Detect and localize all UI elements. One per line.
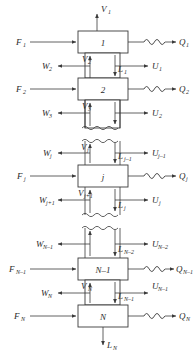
heat-exchanger-coil-n bbox=[144, 314, 165, 319]
label-L1-base: L bbox=[117, 64, 123, 74]
label-U2-sub: 2 bbox=[159, 113, 162, 119]
label-Wjp1-sub: j+1 bbox=[45, 200, 55, 206]
heat-exchanger-coil-1 bbox=[144, 40, 165, 45]
cascade-diagram: V 1 1 F 1 Q 1 V 2 L 1 W 2 U 1 2 F 2 bbox=[0, 0, 196, 359]
cascade-svg: V 1 1 F 1 Q 1 V 2 L 1 W 2 U 1 2 F 2 bbox=[0, 0, 196, 359]
label-Fnm1-base: F bbox=[8, 264, 15, 274]
stage-label-2: 2 bbox=[101, 85, 106, 95]
heat-exchanger-coil-n-minus-1 bbox=[144, 267, 165, 272]
label-Lnm2-sub: N–2 bbox=[123, 249, 134, 255]
label-Q1-sub: 1 bbox=[186, 42, 189, 48]
label-Lnm2-base: L bbox=[117, 244, 123, 254]
label-F2-sub: 2 bbox=[23, 89, 26, 95]
label-Qj-base: Q bbox=[179, 171, 186, 181]
label-F1-sub: 1 bbox=[23, 42, 26, 48]
label-LN-sub: N bbox=[112, 345, 118, 351]
stage-label-n: N bbox=[99, 312, 107, 322]
label-L1-sub: 1 bbox=[124, 69, 127, 75]
label-Ujm1-sub: j–1 bbox=[157, 153, 166, 159]
heat-exchanger-coil-2 bbox=[144, 87, 165, 92]
label-U2-base: U bbox=[152, 108, 159, 118]
break-wave-2 bbox=[82, 139, 118, 142]
label-Ljm1-base: L bbox=[117, 151, 123, 161]
label-WN-sub: N bbox=[47, 293, 53, 299]
label-FN-sub: N bbox=[20, 316, 26, 322]
break-wave-4 bbox=[82, 226, 118, 229]
label-V1-base: V bbox=[101, 4, 108, 14]
label-Fj-base: F bbox=[16, 171, 23, 181]
label-Vj-sub: j bbox=[86, 147, 89, 153]
label-Unm2-sub: N–2 bbox=[157, 244, 168, 250]
label-Ljm1-sub: j–1 bbox=[123, 156, 132, 162]
label-Unm1-sub: N–1 bbox=[157, 286, 168, 292]
label-V1-sub: 1 bbox=[108, 9, 111, 15]
label-F2-base: F bbox=[15, 84, 22, 94]
label-LN-base: L bbox=[106, 340, 112, 350]
break-wave-3 bbox=[82, 213, 118, 216]
label-Q2-sub: 2 bbox=[186, 89, 189, 95]
label-U1-base: U bbox=[152, 61, 159, 71]
label-Wj-sub: j bbox=[49, 153, 52, 159]
label-F1-base: F bbox=[15, 37, 22, 47]
label-FN-base: F bbox=[13, 311, 20, 321]
label-Q1-base: Q bbox=[179, 37, 186, 47]
label-Lj-sub: j bbox=[123, 205, 126, 211]
label-QN-base: Q bbox=[179, 311, 186, 321]
label-W3-sub: 3 bbox=[48, 113, 52, 119]
label-Qj-sub: j bbox=[185, 176, 188, 182]
stage-label-n-minus-1: N–1 bbox=[94, 265, 110, 275]
label-Lnm1-base: L bbox=[117, 291, 123, 301]
label-V2-sub: 2 bbox=[88, 59, 91, 65]
label-Fj-sub: j bbox=[23, 176, 26, 182]
label-Qnm1-sub: N–1 bbox=[182, 269, 193, 275]
label-Uj-base: U bbox=[152, 195, 159, 205]
label-QN-sub: N bbox=[185, 316, 191, 322]
stage-label-j: j bbox=[101, 172, 105, 182]
label-Qnm1-base: Q bbox=[176, 264, 183, 274]
label-Lnm1-sub: N–1 bbox=[123, 296, 134, 302]
label-Vjp1-sub: j+1 bbox=[83, 193, 93, 199]
label-Lj-base: L bbox=[117, 200, 123, 210]
label-Q2-base: Q bbox=[179, 84, 186, 94]
heat-exchanger-coil-j bbox=[144, 174, 165, 179]
label-W2-sub: 2 bbox=[49, 66, 52, 72]
stage-label-1: 1 bbox=[101, 38, 106, 48]
label-Wnm1-sub: N–1 bbox=[42, 244, 53, 250]
label-V3-sub: 3 bbox=[87, 106, 91, 112]
label-Uj-sub: j bbox=[158, 200, 161, 206]
label-U1-sub: 1 bbox=[159, 66, 162, 72]
label-Fnm1-sub: N–1 bbox=[15, 269, 26, 275]
